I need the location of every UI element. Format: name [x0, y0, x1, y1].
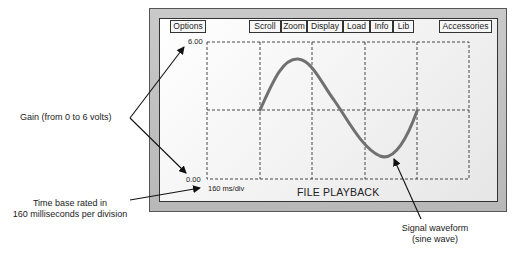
grid [207, 42, 469, 179]
callout-arrows [130, 47, 421, 219]
timebase-callout-line1: Time base rated in [0, 198, 140, 209]
waveform-callout-line1: Signal waveform [390, 223, 480, 234]
timebase-callout-line2: 160 milliseconds per division [0, 209, 140, 220]
gain-callout: Gain (from 0 to 6 volts) [20, 112, 112, 123]
sine-waveform [260, 59, 417, 157]
waveform-callout-line2: (sine wave) [390, 234, 480, 245]
